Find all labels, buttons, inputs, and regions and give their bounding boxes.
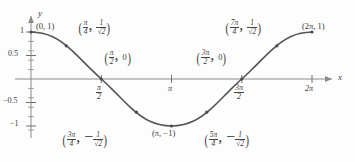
p5pi4-sign: − <box>226 128 235 145</box>
y-tick-label-neg0.5: −0.5 <box>3 96 18 105</box>
right-paren: ) <box>107 23 111 36</box>
x-axis-label: x <box>338 72 342 82</box>
point-label-origin: (0, 1) <box>36 21 54 31</box>
right-paren: ) <box>127 53 131 66</box>
p3pi4-y-num: 1 <box>93 131 103 139</box>
zpi2-y: 0 <box>122 52 126 62</box>
point-label-end: (2π, 1) <box>302 21 325 31</box>
point-label-pi-over-4: ( π 4 , 1 √2 ) <box>78 16 111 36</box>
p7pi4-y-den: √2 <box>247 27 257 36</box>
p7pi4-x-num: 7π <box>230 19 240 27</box>
right-paren: ) <box>258 23 262 36</box>
z3pi2-x-num: 3π <box>201 49 211 57</box>
y-axis-label: y <box>38 8 42 18</box>
right-paren: ) <box>223 53 227 66</box>
left-paren: ( <box>197 53 201 66</box>
pi4-y-num: 1 <box>96 19 106 27</box>
left-paren: ( <box>63 135 67 148</box>
x-tick-label-2pi: 2π <box>305 84 313 93</box>
left-paren: ( <box>79 23 83 36</box>
p7pi4-y-num: 1 <box>247 19 257 27</box>
right-paren: ) <box>246 135 250 148</box>
x-tick-3pi2-numerator: 3π <box>234 84 244 92</box>
p3pi4-sign: − <box>84 128 93 145</box>
p5pi4-x-den: 4 <box>209 139 219 148</box>
x-axis-arrow <box>325 76 332 82</box>
x-tick-label-pi-over-2: π 2 <box>96 84 102 103</box>
p3pi4-y-den: √2 <box>93 139 103 148</box>
p7pi4-x-den: 4 <box>230 27 240 36</box>
y-tick-label-neg1: −1 <box>10 119 19 128</box>
x-tick-pi2-denominator: 2 <box>96 92 102 101</box>
p3pi4-x-num: 3π <box>67 131 77 139</box>
y-axis-arrow <box>28 16 34 23</box>
x-tick-label-pi: π <box>168 84 172 93</box>
point-label-3pi-over-2-zero: ( 3π 2 , 0) <box>196 46 227 66</box>
point-label-3pi-over-4: ( 3π 4 , − 1 √2 ) <box>62 128 108 148</box>
left-paren: ( <box>226 23 230 36</box>
p5pi4-y-num: 1 <box>235 131 245 139</box>
figure-canvas: y x 1 0.5 −0.5 −1 π 2 π 3π 2 2π (0, 1) (… <box>0 0 355 162</box>
point-label-minimum: (π, −1) <box>152 128 175 138</box>
point-label-7pi-over-4: ( 7π 4 , 1 √2 ) <box>225 16 262 36</box>
p3pi4-x-den: 4 <box>67 139 77 148</box>
y-tick-label-0.5: 0.5 <box>8 49 18 58</box>
p5pi4-y-den: √2 <box>235 139 245 148</box>
point-label-pi-over-2-zero: ( π 2 , 0) <box>104 46 131 66</box>
left-paren: ( <box>105 53 109 66</box>
x-tick-pi2-numerator: π <box>96 84 102 92</box>
x-tick-label-3pi-over-2: 3π 2 <box>234 84 244 103</box>
x-tick-3pi2-denominator: 2 <box>234 92 244 101</box>
pi4-y-den: √2 <box>96 27 106 36</box>
p5pi4-x-num: 5π <box>209 131 219 139</box>
right-paren: ) <box>104 135 108 148</box>
y-tick-label-1: 1 <box>20 26 24 35</box>
point-label-5pi-over-4: ( 5π 4 , − 1 √2 ) <box>204 128 250 148</box>
left-paren: ( <box>205 135 209 148</box>
z3pi2-x-den: 2 <box>201 57 211 66</box>
